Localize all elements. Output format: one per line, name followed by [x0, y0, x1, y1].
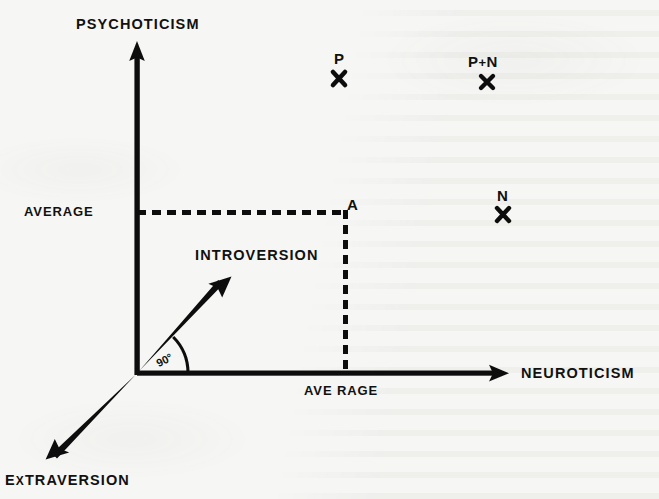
average-psychoticism-tick-label: AVERAGE	[24, 204, 94, 219]
point-p-plus-n-label-p: P	[468, 53, 479, 70]
point-p-plus-n-label: P+N	[468, 53, 498, 70]
projection-corner-label-a: A	[347, 196, 358, 213]
marker-x-point-n	[497, 208, 509, 221]
neuroticism-axis-label: NEUROTICISM	[521, 365, 635, 381]
point-n-label: N	[497, 187, 508, 204]
point-p-label: P	[334, 50, 345, 67]
marker-x-point-p-plus-n	[481, 76, 493, 88]
point-p-plus-n-label-n: N	[487, 53, 498, 70]
extraversion-axis-line	[46, 371, 140, 460]
average-neuroticism-tick-label: AVE RAGE	[304, 383, 378, 398]
neuroticism-axis-line	[137, 365, 509, 382]
introversion-axis-label: INTROVERSION	[195, 247, 319, 263]
extraversion-axis-label-text: EXTRAVERSION	[5, 472, 130, 488]
psychoticism-axis-line	[129, 41, 145, 375]
axis-diagram-svg	[0, 0, 659, 499]
point-p-plus-n-label-plus: +	[479, 55, 487, 70]
marker-x-point-p	[333, 72, 345, 85]
figure-page: PSYCHOTICISM NEUROTICISM INTROVERSION EX…	[0, 0, 659, 499]
right-angle-arc	[173, 337, 188, 373]
extraversion-axis-label: EXTRAVERSION	[5, 472, 130, 488]
introversion-axis-line	[135, 277, 231, 376]
psychoticism-axis-label: PSYCHOTICISM	[76, 16, 200, 32]
